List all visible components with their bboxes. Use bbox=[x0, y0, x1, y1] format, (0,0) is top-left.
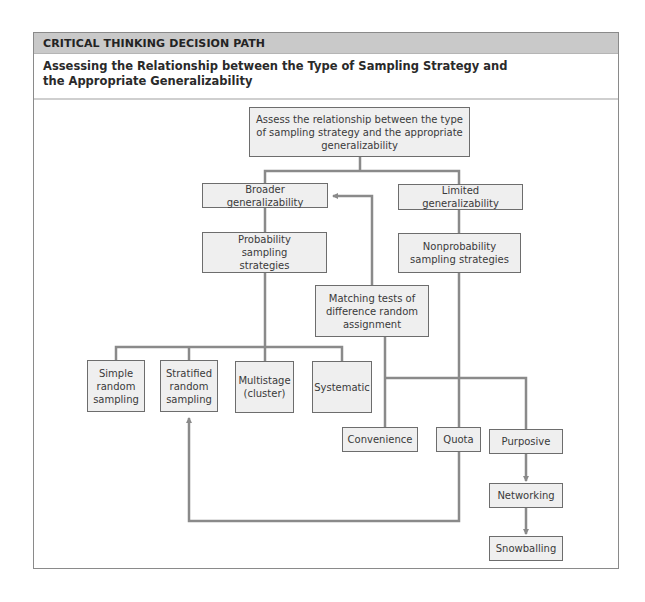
node-matching-label: Matching tests of difference random assi… bbox=[322, 292, 422, 331]
node-convenience: Convenience bbox=[342, 427, 418, 452]
node-systematic: Systematic bbox=[312, 361, 372, 413]
node-purposive: Purposive bbox=[489, 429, 563, 454]
node-convenience-label: Convenience bbox=[348, 433, 413, 446]
node-multistage-label: Multistage (cluster) bbox=[238, 374, 290, 400]
node-quota: Quota bbox=[436, 427, 481, 452]
node-limited-label: Limited generalizability bbox=[402, 184, 519, 210]
panel-header-label: CRITICAL THINKING DECISION PATH bbox=[43, 37, 265, 50]
node-quota-label: Quota bbox=[443, 433, 473, 446]
node-stratified-random-sampling: Stratified random sampling bbox=[160, 360, 218, 412]
subtitle-line-1: Assessing the Relationship between the T… bbox=[43, 59, 523, 74]
node-stratified-random-label: Stratified random sampling bbox=[164, 367, 214, 406]
panel-subtitle-text: Assessing the Relationship between the T… bbox=[43, 59, 523, 89]
node-matching-tests: Matching tests of difference random assi… bbox=[315, 285, 429, 337]
node-nonprobability-label: Nonprobability sampling strategies bbox=[409, 240, 510, 266]
node-root-label: Assess the relationship between the type… bbox=[253, 113, 466, 152]
node-networking: Networking bbox=[489, 483, 563, 508]
node-broader-label: Broader generalizability bbox=[206, 183, 324, 209]
node-simple-random-label: Simple random sampling bbox=[91, 367, 141, 406]
node-networking-label: Networking bbox=[497, 489, 554, 502]
node-probability-strategies: Probability sampling strategies bbox=[202, 232, 327, 273]
node-simple-random-sampling: Simple random sampling bbox=[87, 360, 145, 412]
node-root: Assess the relationship between the type… bbox=[249, 107, 470, 157]
node-nonprobability-strategies: Nonprobability sampling strategies bbox=[398, 233, 521, 273]
node-broader-generalizability: Broader generalizability bbox=[202, 183, 328, 208]
subtitle-line-2: the Appropriate Generalizability bbox=[43, 74, 523, 89]
node-probability-label: Probability sampling strategies bbox=[217, 233, 312, 272]
node-snowballing-label: Snowballing bbox=[496, 542, 556, 555]
node-snowballing: Snowballing bbox=[489, 536, 563, 561]
node-limited-generalizability: Limited generalizability bbox=[398, 184, 523, 210]
node-purposive-label: Purposive bbox=[502, 435, 551, 448]
node-systematic-label: Systematic bbox=[314, 381, 370, 394]
panel-header: CRITICAL THINKING DECISION PATH bbox=[34, 33, 618, 54]
panel-subtitle: Assessing the Relationship between the T… bbox=[34, 54, 618, 100]
node-multistage-cluster: Multistage (cluster) bbox=[235, 361, 294, 413]
